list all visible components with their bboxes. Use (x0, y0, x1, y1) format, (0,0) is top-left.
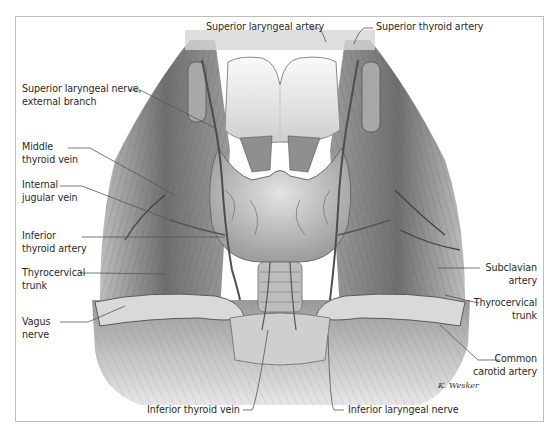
label-line: trunk (474, 310, 537, 323)
label-line: thyroid vein (22, 154, 78, 167)
label-inferior-laryngeal-nerve: Inferior laryngeal nerve (348, 404, 459, 417)
label-line: Thyrocervical (22, 267, 85, 280)
label-subclavian-artery: Subclavian artery (486, 262, 537, 287)
label-line: carotid artery (473, 366, 537, 379)
label-line: Common (473, 353, 537, 366)
label-line: Internal (22, 179, 78, 192)
label-line: Thyrocervical (474, 297, 537, 310)
label-vagus-nerve: Vagus nerve (22, 316, 50, 341)
label-middle-thyroid-vein: Middle thyroid vein (22, 141, 78, 166)
label-inferior-thyroid-artery: Inferior thyroid artery (22, 230, 87, 255)
label-superior-thyroid-artery: Superior thyroid artery (376, 21, 483, 34)
label-thyrocervical-trunk-right: Thyrocervical trunk (474, 297, 537, 322)
artist-signature: K. Wesker (437, 381, 480, 390)
label-line: trunk (22, 280, 85, 293)
label-superior-laryngeal-nerve-external-branch: Superior laryngeal nerve, external branc… (22, 83, 142, 108)
label-inferior-thyroid-vein: Inferior thyroid vein (147, 404, 240, 417)
label-superior-laryngeal-artery: Superior laryngeal artery (206, 21, 324, 34)
label-line: Middle (22, 141, 78, 154)
label-line: Inferior (22, 230, 87, 243)
label-internal-jugular-vein: Internal jugular vein (22, 179, 78, 204)
label-line: artery (486, 275, 537, 288)
label-line: external branch (22, 96, 142, 109)
label-line: Vagus (22, 316, 50, 329)
label-thyrocervical-trunk-left: Thyrocervical trunk (22, 267, 85, 292)
label-line: Subclavian (486, 262, 537, 275)
label-common-carotid-artery: Common carotid artery (473, 353, 537, 378)
label-line: jugular vein (22, 192, 78, 205)
label-line: Superior laryngeal nerve, (22, 83, 142, 96)
label-line: thyroid artery (22, 243, 87, 256)
label-line: nerve (22, 329, 50, 342)
